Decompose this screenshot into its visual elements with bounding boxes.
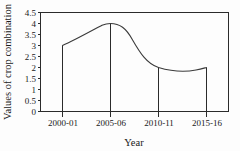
y-tick-label-2: 2 <box>32 63 37 73</box>
y-tick-label-4: 4 <box>32 19 37 29</box>
x-tick-label-2005-06: 2005-06 <box>96 118 126 128</box>
line-chart: 0 0.5 1 1.5 2 2.5 3 3.5 4 4.5 2000-01 20… <box>0 0 240 151</box>
x-tick-label-2015-16: 2015-16 <box>192 118 222 128</box>
plot-frame <box>41 13 229 112</box>
y-tick-label-2p5: 2.5 <box>25 52 37 62</box>
x-axis-ticks <box>63 112 207 117</box>
y-tick-label-0p5: 0.5 <box>25 96 37 106</box>
x-tick-label-2010-11: 2010-11 <box>144 118 174 128</box>
y-tick-label-3p5: 3.5 <box>25 30 37 40</box>
data-series-line <box>63 24 207 72</box>
data-drop-lines <box>63 24 207 112</box>
x-tick-label-2000-01: 2000-01 <box>48 118 78 128</box>
y-tick-label-1: 1 <box>32 85 37 95</box>
y-tick-label-3: 3 <box>32 41 37 51</box>
y-tick-label-4p5: 4.5 <box>25 8 37 18</box>
chart-container: 0 0.5 1 1.5 2 2.5 3 3.5 4 4.5 2000-01 20… <box>0 0 240 151</box>
y-tick-label-1p5: 1.5 <box>25 74 37 84</box>
y-tick-label-0: 0 <box>32 107 37 117</box>
